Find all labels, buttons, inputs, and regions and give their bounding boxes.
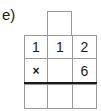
cell-r1-c2: 6: [72, 58, 97, 83]
cell-r1-c1: [47, 58, 73, 83]
cell-r0-c0: 1: [24, 35, 48, 59]
answer-cell-c2[interactable]: [72, 84, 97, 109]
cell-r0-c2: 2: [72, 35, 97, 59]
answer-cell-c1[interactable]: [47, 84, 73, 109]
cell-r0-c1: 1: [47, 35, 73, 59]
multiply-sign: ×: [24, 58, 48, 83]
answer-cell-c0[interactable]: [24, 84, 48, 109]
carry-box[interactable]: [47, 11, 72, 36]
exercise-label: e): [2, 6, 15, 24]
